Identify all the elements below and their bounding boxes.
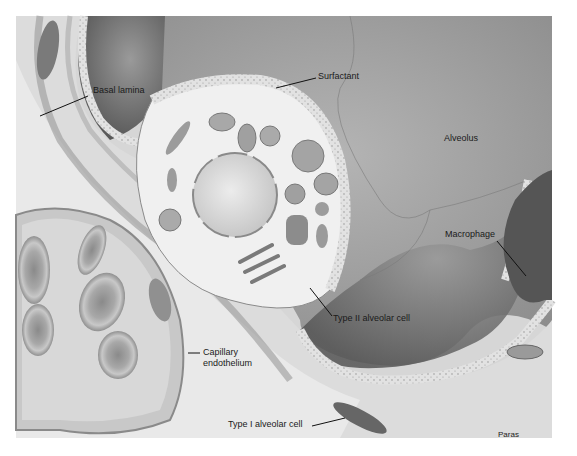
artist-credit: Paras (498, 430, 519, 439)
alveolus-illustration (0, 0, 577, 456)
label-alveolus: Alveolus (444, 133, 478, 144)
label-capillary-endothelium-line2: endothelium (203, 358, 252, 369)
label-type-i-alveolar-cell: Type I alveolar cell (228, 419, 303, 430)
label-surfactant: Surfactant (318, 71, 359, 82)
label-macrophage: Macrophage (445, 229, 495, 240)
label-capillary-endothelium-line1: Capillary (203, 347, 238, 358)
label-type-ii-alveolar-cell: Type II alveolar cell (333, 313, 410, 324)
label-basal-lamina: Basal lamina (93, 85, 145, 96)
